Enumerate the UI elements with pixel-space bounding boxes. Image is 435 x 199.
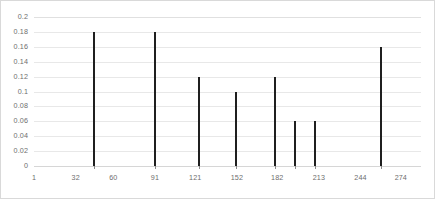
x-axis-tick — [295, 166, 296, 169]
x-axis-tick-label: 1 — [32, 174, 36, 181]
x-axis-tick — [94, 166, 95, 169]
x-axis-tick-label: 60 — [109, 174, 117, 181]
x-axis-tick — [236, 166, 237, 169]
x-axis-tick-label: 244 — [354, 174, 366, 181]
chart-container: 0.20.180.160.140.120.10.080.060.040.020 … — [0, 0, 435, 199]
x-axis-tick-label: 91 — [151, 174, 159, 181]
x-axis-tick — [315, 166, 316, 169]
x-axis-tick — [275, 166, 276, 169]
x-axis-tick-label: 32 — [72, 174, 80, 181]
x-axis-tick-label: 213 — [313, 174, 325, 181]
x-axis-tick-label: 152 — [231, 174, 243, 181]
x-axis-tick — [381, 166, 382, 169]
x-axis-tick — [199, 166, 200, 169]
x-axis-tick-label: 182 — [271, 174, 283, 181]
x-axis-tick — [155, 166, 156, 169]
x-axis-tick-label: 121 — [189, 174, 201, 181]
x-axis-tick-label: 274 — [395, 174, 407, 181]
x-axis: 1326091121152182213244274 — [1, 1, 435, 199]
